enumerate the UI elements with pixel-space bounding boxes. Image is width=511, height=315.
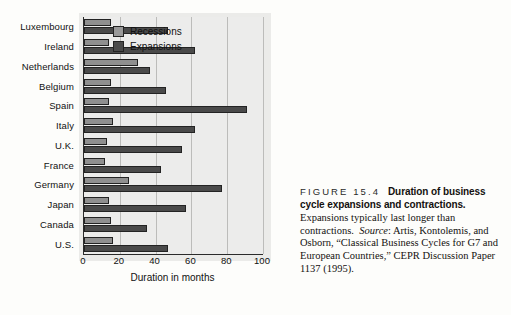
x-tick-label: 40 (149, 255, 160, 266)
bar-group (84, 175, 263, 195)
bar-recessions (84, 197, 109, 204)
bar-recessions (84, 59, 138, 66)
bar-expansions (84, 146, 182, 153)
bar-group (84, 195, 263, 215)
figure-15-4: LuxembourgIrelandNetherlandsBelgiumSpain… (0, 0, 511, 315)
bar-recessions (84, 237, 113, 244)
x-tick-label: 60 (185, 255, 196, 266)
x-axis-title: Duration in months (83, 272, 262, 283)
y-axis-label: Germany (0, 175, 79, 195)
y-axis-label: Belgium (0, 76, 79, 96)
bar-group (84, 96, 263, 116)
figure-number: FIGURE 15.4 (300, 186, 380, 197)
y-axis-label: Luxembourg (0, 17, 79, 37)
bar-expansions (84, 106, 247, 113)
y-axis-label: Netherlands (0, 57, 79, 77)
chart-inner: LuxembourgIrelandNetherlandsBelgiumSpain… (0, 8, 285, 293)
x-tick-label: 0 (80, 255, 85, 266)
bar-group (84, 136, 263, 156)
legend-label: Expansions (130, 41, 182, 52)
bar-recessions (84, 158, 105, 165)
y-axis-label: U.S. (0, 234, 79, 254)
y-axis-label: U.K. (0, 136, 79, 156)
bar-expansions (84, 245, 168, 252)
bar-chart: LuxembourgIrelandNetherlandsBelgiumSpain… (0, 0, 285, 315)
y-axis-label: Canada (0, 215, 79, 235)
x-axis-tick-labels: 020406080100 (83, 255, 262, 271)
caption-source-label: Source (359, 225, 388, 236)
bar-group (84, 215, 263, 235)
bar-recessions (84, 39, 109, 46)
y-axis-label: Japan (0, 195, 79, 215)
bar-expansions (84, 67, 150, 74)
bar-group (84, 155, 263, 175)
gridline (263, 17, 264, 254)
bar-group (84, 234, 263, 254)
x-tick-label: 20 (114, 255, 125, 266)
bar-recessions (84, 19, 111, 26)
bar-rows (84, 17, 263, 254)
y-axis-label: Spain (0, 96, 79, 116)
x-tick-label: 80 (221, 255, 232, 266)
y-axis-label: France (0, 155, 79, 175)
bar-recessions (84, 98, 109, 105)
bar-recessions (84, 118, 113, 125)
bar-recessions (84, 217, 111, 224)
bar-recessions (84, 138, 107, 145)
bar-expansions (84, 205, 186, 212)
x-tick-label: 100 (254, 255, 270, 266)
bar-recessions (84, 79, 111, 86)
bar-expansions (84, 166, 161, 173)
legend-item: Recessions (113, 26, 182, 37)
y-axis-category-labels: LuxembourgIrelandNetherlandsBelgiumSpain… (0, 17, 79, 254)
bar-expansions (84, 126, 195, 133)
bar-expansions (84, 185, 222, 192)
legend-item: Expansions (113, 41, 182, 52)
bar-group (84, 57, 263, 77)
bar-recessions (84, 177, 129, 184)
bar-group (84, 116, 263, 136)
chart-legend: RecessionsExpansions (113, 26, 182, 52)
bar-expansions (84, 225, 147, 232)
y-axis-label: Italy (0, 116, 79, 136)
y-axis-label: Ireland (0, 37, 79, 57)
legend-swatch-icon (113, 41, 124, 52)
legend-swatch-icon (113, 26, 124, 37)
plot-area (83, 17, 263, 255)
caption-body: Expansions typically last longer than co… (300, 212, 500, 275)
bar-expansions (84, 87, 166, 94)
bar-group (84, 76, 263, 96)
legend-label: Recessions (130, 26, 182, 37)
figure-caption: FIGURE 15.4 Duration of business cycle e… (300, 186, 500, 275)
